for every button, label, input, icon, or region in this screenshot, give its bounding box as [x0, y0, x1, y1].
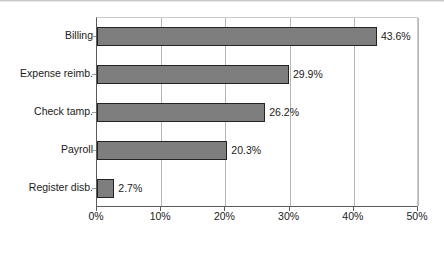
top-scan-line — [0, 0, 444, 2]
bar-billing[interactable] — [97, 27, 377, 46]
bar-check-tamp[interactable] — [97, 103, 265, 122]
bar-row-check-tamp[interactable]: 26.2% — [97, 94, 418, 132]
bar-payroll[interactable] — [97, 141, 227, 160]
bar-expense-reimb[interactable] — [97, 65, 289, 84]
category-label-expense-reimb: Expense reimb. — [1, 64, 93, 83]
bar-value-label-register-disb: 2.7% — [114, 179, 142, 198]
plot-area: 43.6%29.9%26.2%20.3%2.7% — [96, 17, 418, 207]
bar-value-label-check-tamp: 26.2% — [265, 103, 299, 122]
x-tick-label-10%: 10% — [150, 210, 171, 222]
category-label-check-tamp: Check tamp. — [1, 102, 93, 121]
x-tick-label-40%: 40% — [342, 210, 363, 222]
x-tick-label-50%: 50% — [406, 210, 427, 222]
bar-row-register-disb[interactable]: 2.7% — [97, 170, 418, 208]
bar-value-label-expense-reimb: 29.9% — [289, 65, 323, 84]
category-label-billing: Billing — [1, 26, 93, 45]
bar-row-expense-reimb[interactable]: 29.9% — [97, 56, 418, 94]
bar-row-payroll[interactable]: 20.3% — [97, 132, 418, 170]
y-axis-labels: Billing Expense reimb. Check tamp. Payro… — [0, 17, 93, 207]
gridline-50% — [418, 18, 419, 206]
category-label-payroll: Payroll — [1, 140, 93, 159]
bar-value-label-payroll: 20.3% — [227, 141, 261, 160]
x-tick-label-0%: 0% — [88, 210, 103, 222]
x-axis-labels: 0%10%20%30%40%50% — [96, 210, 418, 230]
bar-chart: Billing Expense reimb. Check tamp. Payro… — [0, 0, 444, 256]
bar-value-label-billing: 43.6% — [377, 27, 411, 46]
x-tick-label-30%: 30% — [278, 210, 299, 222]
bar-row-billing[interactable]: 43.6% — [97, 18, 418, 56]
category-label-register-disb: Register disb. — [1, 178, 93, 197]
bar-register-disb[interactable] — [97, 179, 114, 198]
x-tick-label-20%: 20% — [214, 210, 235, 222]
